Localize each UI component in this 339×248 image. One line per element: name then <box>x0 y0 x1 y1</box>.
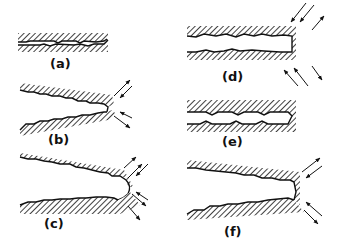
panel-d: (d) <box>187 3 324 86</box>
tension-arrows <box>302 158 322 224</box>
panel-label-d: (d) <box>222 69 243 84</box>
panel-label-b: (b) <box>48 132 69 147</box>
panel-label-a: (a) <box>50 56 71 71</box>
panel-label-f: (f) <box>224 224 242 239</box>
tension-arrows <box>114 80 132 128</box>
crack-propagation-diagram: (a) (b) (c) <box>0 0 339 248</box>
panel-label-c: (c) <box>44 216 64 231</box>
panel-b: (b) <box>20 80 132 147</box>
panel-label-e: (e) <box>222 134 243 149</box>
compression-arrows <box>284 3 324 86</box>
panel-f: (f) <box>187 158 322 239</box>
panel-a: (a) <box>18 33 108 71</box>
panel-e: (e) <box>187 100 296 149</box>
panel-c: (c) <box>20 153 148 231</box>
